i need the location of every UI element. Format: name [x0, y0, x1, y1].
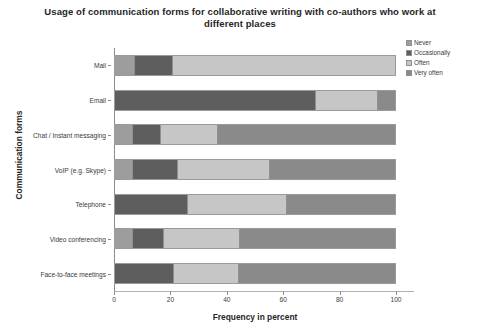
y-axis-tick	[108, 274, 111, 275]
bar-segment	[115, 229, 132, 248]
y-axis-tick-label: Email	[90, 97, 107, 104]
bar-segment	[217, 125, 395, 144]
bar-row	[114, 194, 396, 215]
legend-swatch-icon	[406, 50, 412, 56]
bar-segment	[177, 160, 269, 179]
x-axis-title: Frequency in percent	[114, 312, 396, 322]
bar-row	[114, 90, 396, 111]
y-axis-tick-label: Telephone	[76, 201, 106, 208]
legend-item[interactable]: Very often	[406, 68, 480, 77]
bar-row	[114, 228, 396, 249]
bar-segment	[115, 160, 132, 179]
bar-segment	[173, 264, 238, 283]
bar-segment	[238, 264, 395, 283]
bar-segment	[132, 125, 161, 144]
legend-swatch-icon	[406, 70, 412, 76]
stacked-bar	[114, 55, 396, 76]
legend-label: Occasionally	[414, 49, 450, 56]
bar-row	[114, 263, 396, 284]
chart-legend: NeverOccasionallyOftenVery often	[406, 38, 480, 78]
bar-segment	[187, 195, 285, 214]
y-axis-tick	[108, 135, 111, 136]
x-axis-tick	[283, 291, 284, 295]
x-axis-tick-label: 20	[167, 296, 174, 303]
x-axis-tick	[227, 291, 228, 295]
bar-segment	[132, 160, 177, 179]
legend-label: Never	[414, 39, 431, 46]
x-axis-tick-label: 40	[223, 296, 230, 303]
y-axis-tick-label: Chat / Instant messaging	[33, 131, 106, 138]
bar-segment	[239, 229, 395, 248]
stacked-bar	[114, 263, 396, 284]
legend-item[interactable]: Occasionally	[406, 48, 480, 57]
y-axis-tick	[108, 170, 111, 171]
x-axis-tick	[170, 291, 171, 295]
bar-segment	[160, 125, 216, 144]
legend-swatch-icon	[406, 40, 412, 46]
legend-item[interactable]: Often	[406, 58, 480, 67]
legend-swatch-icon	[406, 60, 412, 66]
bar-segment	[115, 264, 173, 283]
bar-segment	[115, 91, 315, 110]
y-axis-tick-label: Mail	[94, 62, 106, 69]
x-axis-tick	[396, 291, 397, 295]
x-axis-tick	[340, 291, 341, 295]
x-axis-tick-label: 60	[280, 296, 287, 303]
y-axis-tick	[108, 204, 111, 205]
stacked-bar	[114, 124, 396, 145]
x-axis-tick	[114, 291, 115, 295]
x-axis-tick-label: 100	[390, 296, 401, 303]
y-axis-tick	[108, 65, 111, 66]
legend-label: Very often	[414, 69, 443, 76]
x-axis-tick-label: 0	[112, 296, 116, 303]
bar-rows	[114, 48, 396, 291]
chart-canvas: Usage of communication forms for collabo…	[0, 0, 483, 336]
x-axis-tick-label: 80	[336, 296, 343, 303]
y-axis-tick-label: Video conferencing	[50, 235, 106, 242]
stacked-bar	[114, 159, 396, 180]
bar-segment	[115, 56, 134, 75]
y-axis-tick-label: VoIP (e.g. Skype)	[55, 166, 106, 173]
bar-segment	[269, 160, 395, 179]
bar-segment	[315, 91, 377, 110]
bar-segment	[172, 56, 395, 75]
legend-item[interactable]: Never	[406, 38, 480, 47]
y-axis-tick	[108, 100, 111, 101]
y-axis-tick	[108, 239, 111, 240]
bar-row	[114, 124, 396, 145]
y-axis-labels: MailEmailChat / Instant messagingVoIP (e…	[0, 48, 112, 291]
stacked-bar	[114, 90, 396, 111]
bar-segment	[134, 56, 171, 75]
bar-segment	[163, 229, 239, 248]
x-axis-ticks: 020406080100	[114, 291, 396, 311]
bar-segment	[132, 229, 163, 248]
bar-segment	[115, 125, 132, 144]
bar-row	[114, 55, 396, 76]
bar-segment	[377, 91, 395, 110]
stacked-bar	[114, 228, 396, 249]
plot-area	[114, 48, 396, 291]
y-axis-tick-label: Face-to-face meetings	[40, 270, 106, 277]
bar-segment	[115, 195, 187, 214]
legend-label: Often	[414, 59, 430, 66]
stacked-bar	[114, 194, 396, 215]
chart-title: Usage of communication forms for collabo…	[30, 6, 450, 30]
bar-row	[114, 159, 396, 180]
bar-segment	[286, 195, 395, 214]
